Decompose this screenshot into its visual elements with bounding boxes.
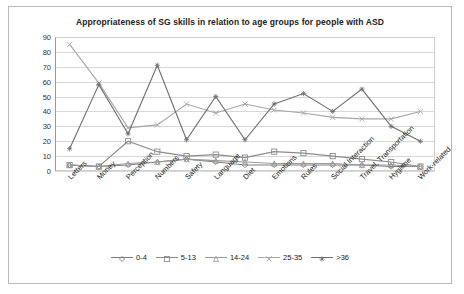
y-tick-label: 60 — [35, 77, 51, 86]
legend-swatch — [156, 257, 178, 258]
legend-item[interactable]: 0-4 — [111, 253, 147, 262]
legend-label: 25-35 — [283, 253, 302, 262]
data-series — [55, 37, 435, 171]
legend-swatch — [311, 257, 333, 258]
y-tick-label: 80 — [35, 47, 51, 56]
legend-label: 5-13 — [181, 253, 196, 262]
legend-swatch — [111, 257, 133, 258]
legend-item[interactable]: >36 — [311, 253, 349, 262]
series-layer — [55, 37, 435, 171]
legend-marker-icon — [266, 256, 271, 261]
legend-item[interactable]: 25-35 — [258, 253, 302, 262]
legend-swatch — [205, 257, 227, 258]
y-tick-label: 20 — [35, 137, 51, 146]
legend-item[interactable]: 5-13 — [156, 253, 196, 262]
legend-swatch — [258, 257, 280, 258]
y-tick-label: 50 — [35, 92, 51, 101]
y-tick-label: 30 — [35, 122, 51, 131]
legend-marker-icon — [164, 256, 169, 261]
legend-label: >36 — [336, 253, 349, 262]
legend-label: 14-24 — [230, 253, 249, 262]
legend-marker-icon — [119, 256, 124, 261]
plot-area — [55, 37, 435, 171]
x-axis-labels: LettersMoneyPerceptionNumbersSafetyLangu… — [55, 173, 447, 253]
y-tick-label: 90 — [35, 33, 51, 42]
y-axis-ticks: 0102030405060708090 — [33, 37, 51, 171]
y-tick-label: 40 — [35, 107, 51, 116]
y-tick-label: 10 — [35, 152, 51, 161]
chart-title: Appropriateness of SG skills in relation… — [9, 17, 451, 27]
legend-marker-icon — [319, 256, 324, 261]
legend-item[interactable]: 14-24 — [205, 253, 249, 262]
legend-marker-icon — [213, 256, 218, 261]
y-tick-label: 0 — [35, 167, 51, 176]
chart-legend: 0-45-1314-2425-35>36 — [9, 253, 451, 262]
legend-label: 0-4 — [136, 253, 147, 262]
chart-frame: Appropriateness of SG skills in relation… — [8, 6, 452, 284]
y-tick-label: 70 — [35, 62, 51, 71]
